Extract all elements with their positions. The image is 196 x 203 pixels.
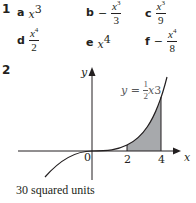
y-axis-label: y xyxy=(81,66,87,79)
tick-label-4: 4 xyxy=(158,153,165,166)
x-axis-label: x xyxy=(184,151,190,164)
tick-label-2: 2 xyxy=(124,153,131,166)
cubic-graph xyxy=(0,0,196,203)
origin-label: 0 xyxy=(84,151,91,164)
curve-equation-label: y = 1 2 x3 xyxy=(121,80,161,101)
shaded-region xyxy=(127,100,161,151)
answer-text: 30 squared units xyxy=(16,183,95,198)
x-axis-arrow-icon xyxy=(173,148,181,155)
y-axis-arrow-icon xyxy=(89,67,96,76)
